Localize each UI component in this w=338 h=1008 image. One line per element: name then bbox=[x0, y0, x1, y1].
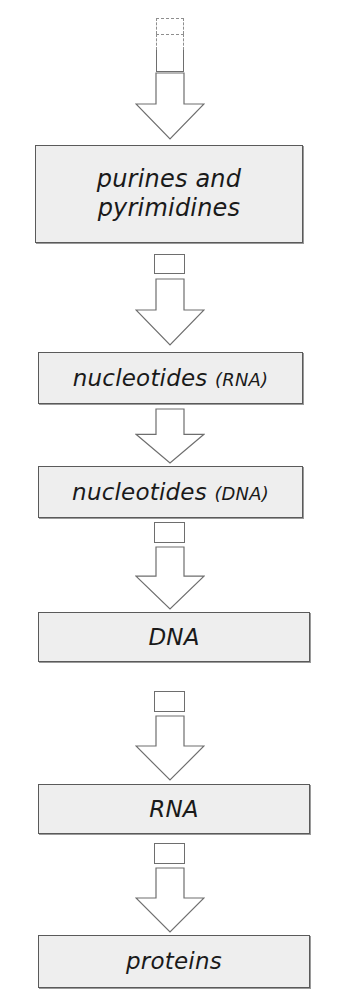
pathway-node-nucleotides-dna: nucleotides (DNA) bbox=[38, 466, 303, 518]
pathway-node-proteins: proteins bbox=[38, 935, 310, 988]
pathway-node-label: purines and pyrimidines bbox=[97, 165, 241, 224]
continuation-solid-lower bbox=[156, 50, 184, 72]
pathway-node-nucleotides-rna: nucleotides (RNA) bbox=[38, 352, 303, 404]
node-label-main: nucleotides bbox=[73, 365, 215, 391]
regulator-box bbox=[154, 691, 185, 712]
continuation-dash-middle bbox=[156, 34, 184, 50]
regulator-box bbox=[154, 522, 185, 543]
pathway-node-purines-pyrimidines: purines and pyrimidines bbox=[35, 145, 303, 243]
pathway-node-label: nucleotides (RNA) bbox=[73, 364, 268, 392]
pathway-node-dna: DNA bbox=[38, 612, 310, 662]
pathway-diagram: purines and pyrimidinesnucleotides (RNA)… bbox=[0, 0, 338, 1008]
node-label-main: nucleotides bbox=[72, 479, 214, 505]
pathway-node-label: proteins bbox=[126, 947, 222, 975]
pathway-node-label: DNA bbox=[148, 623, 199, 651]
down-arrow-icon bbox=[135, 72, 205, 140]
down-arrow-icon bbox=[135, 278, 205, 346]
node-label-qualifier: (DNA) bbox=[214, 483, 269, 504]
down-arrow-icon bbox=[135, 546, 205, 610]
regulator-box bbox=[154, 254, 185, 274]
pathway-node-label: RNA bbox=[149, 795, 199, 823]
down-arrow-icon bbox=[135, 867, 205, 933]
regulator-box bbox=[154, 843, 185, 864]
down-arrow-icon bbox=[135, 408, 205, 464]
down-arrow-icon bbox=[135, 715, 205, 781]
node-label-qualifier: (RNA) bbox=[215, 369, 268, 390]
pathway-node-rna: RNA bbox=[38, 784, 310, 834]
pathway-node-label: nucleotides (DNA) bbox=[72, 478, 269, 506]
continuation-dash-upper bbox=[156, 18, 184, 34]
continuation-marker bbox=[156, 18, 184, 72]
